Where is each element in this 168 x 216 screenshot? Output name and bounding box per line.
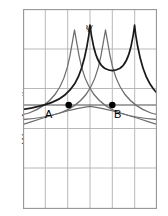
plot-area: A B ψ [23,9,157,209]
point-a-marker [65,102,72,109]
point-a-label: A [45,108,52,120]
y-axis-label-container: Wavefunction, ψ [0,0,24,216]
psi-curve-label: ψ [85,21,93,32]
wavefunction-figure: Wavefunction, ψ [0,0,168,216]
point-b-label: B [114,108,121,120]
